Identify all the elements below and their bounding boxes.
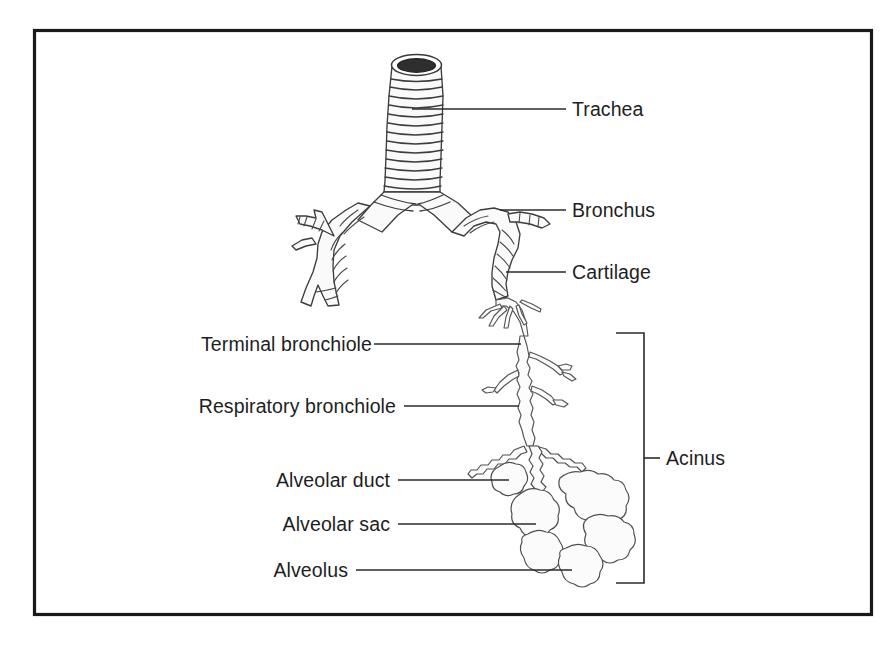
label-bronchus: Bronchus (572, 199, 655, 221)
trachea-lumen-inner (398, 59, 436, 73)
label-alveolar-duct: Alveolar duct (276, 469, 391, 491)
label-alveolus: Alveolus (273, 559, 348, 581)
label-alveolar-sac: Alveolar sac (283, 513, 391, 535)
trachea-structure (384, 55, 443, 193)
label-cartilage: Cartilage (572, 261, 651, 283)
label-respiratory-bronchiole: Respiratory bronchiole (199, 395, 396, 417)
label-terminal-bronchiole: Terminal bronchiole (201, 333, 372, 355)
label-trachea: Trachea (572, 98, 644, 120)
diagram-canvas: Trachea Bronchus Cartilage Terminal bron… (0, 0, 893, 649)
respiratory-tract-diagram: Trachea Bronchus Cartilage Terminal bron… (0, 0, 893, 649)
figure-border (35, 31, 872, 615)
label-acinus: Acinus (666, 447, 725, 469)
